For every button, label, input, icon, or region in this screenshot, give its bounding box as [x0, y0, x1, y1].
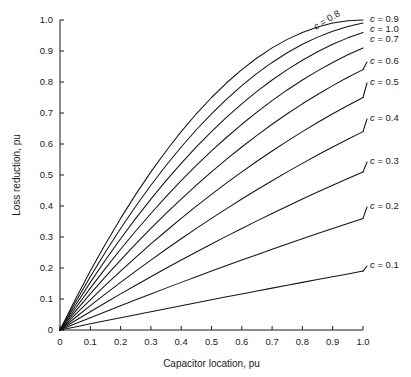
series-label-c06: c = 0.6: [370, 55, 399, 66]
curve-c06: [60, 70, 363, 330]
y-tick-label-0: 0: [48, 324, 53, 335]
leader-c02: [363, 207, 367, 218]
y-tick-label-9: 0.9: [40, 45, 53, 56]
x-axis-title: Capacitor location, pu: [163, 358, 260, 369]
curve-c02: [60, 218, 363, 330]
series-label-c05: c = 0.5: [370, 76, 399, 87]
curve-c01: [60, 271, 363, 330]
y-tick-label-4: 0.4: [40, 200, 53, 211]
y-tick-label-8: 0.8: [40, 76, 53, 87]
y-tick-label-3: 0.3: [40, 231, 53, 242]
x-tick-label-10: 1.0: [356, 336, 369, 347]
x-tick-label-8: 0.8: [296, 336, 309, 347]
axes: [60, 20, 363, 330]
series-label-c10: c = 1.0: [370, 23, 399, 34]
y-tick-label-7: 0.7: [40, 107, 53, 118]
x-tick-label-9: 0.9: [326, 336, 339, 347]
y-tick-label-5: 0.5: [40, 169, 53, 180]
y-axis-title: Loss reduction, pu: [11, 134, 22, 216]
tick-labels: 00.10.20.30.40.50.60.70.80.91.000.10.20.…: [40, 14, 370, 347]
curve-c03: [60, 172, 363, 330]
chart-canvas: 00.10.20.30.40.50.60.70.80.91.000.10.20.…: [0, 0, 411, 377]
curve-c07: [60, 48, 363, 330]
leader-c05: [363, 83, 367, 98]
leader-c06: [363, 62, 367, 70]
leader-c04: [363, 119, 367, 132]
x-tick-label-7: 0.7: [265, 336, 278, 347]
leader-c03: [363, 162, 367, 172]
y-tick-label-2: 0.2: [40, 262, 53, 273]
x-tick-label-4: 0.4: [175, 336, 188, 347]
series-label-c03: c = 0.3: [370, 155, 399, 166]
curve-c05: [60, 98, 363, 331]
x-tick-label-6: 0.6: [235, 336, 248, 347]
x-tick-label-1: 0.1: [84, 336, 97, 347]
x-tick-label-0: 0: [57, 336, 62, 347]
axis-spines: [60, 20, 363, 330]
x-tick-label-5: 0.5: [205, 336, 218, 347]
loss-reduction-chart: 00.10.20.30.40.50.60.70.80.91.000.10.20.…: [0, 0, 411, 377]
curve-series: [60, 20, 367, 330]
series-label-c01: c = 0.1: [370, 259, 399, 270]
series-label-c07: c = 0.7: [370, 33, 399, 44]
curve-c10: [60, 20, 363, 330]
x-tick-label-3: 0.3: [144, 336, 157, 347]
y-tick-label-10: 1.0: [40, 14, 53, 25]
series-label-c08: c = 0.8: [311, 7, 341, 31]
series-label-group-c08: c = 0.8: [311, 7, 341, 31]
leader-c01: [363, 266, 367, 271]
curve-c09: [60, 23, 363, 330]
x-tick-label-2: 0.2: [114, 336, 127, 347]
y-tick-label-1: 0.1: [40, 293, 53, 304]
series-label-c02: c = 0.2: [370, 200, 399, 211]
series-label-c04: c = 0.4: [370, 112, 399, 123]
y-tick-label-6: 0.6: [40, 138, 53, 149]
